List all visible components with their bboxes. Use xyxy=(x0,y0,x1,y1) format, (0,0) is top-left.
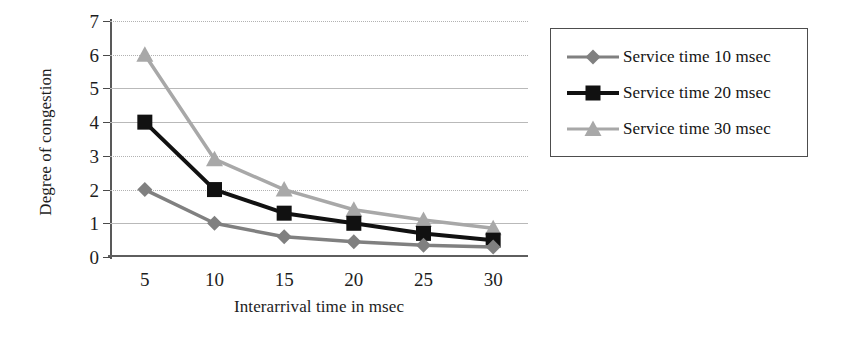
legend-item-label: Service time 10 msec xyxy=(623,47,771,67)
data-point-marker xyxy=(346,216,361,231)
y-axis-title: Degree of congestion xyxy=(36,32,56,252)
triangle-marker xyxy=(565,118,621,140)
y-tick-label-5: 5 xyxy=(90,79,100,98)
data-point-marker xyxy=(137,182,152,197)
series-2 xyxy=(137,115,500,248)
congestion-line-chart: Degree of congestion 01234567 5101520253… xyxy=(0,0,845,345)
x-tick-label-30: 30 xyxy=(484,270,503,289)
y-tick-mark-0 xyxy=(103,257,110,258)
data-point-marker xyxy=(346,234,361,249)
data-point-marker xyxy=(137,115,152,130)
y-tick-mark-2 xyxy=(103,190,110,191)
legend-item-label: Service time 30 msec xyxy=(623,119,771,139)
legend-box: Service time 10 msecService time 20 msec… xyxy=(550,28,808,157)
x-axis-title: Interarrival time in msec xyxy=(110,297,528,317)
y-tick-label-1: 1 xyxy=(90,214,100,233)
y-tick-label-7: 7 xyxy=(90,12,100,31)
legend-item-1[interactable]: Service time 10 msec xyxy=(551,39,807,75)
y-tick-mark-3 xyxy=(103,156,110,157)
y-tick-label-6: 6 xyxy=(90,45,100,64)
x-tick-label-15: 15 xyxy=(275,270,294,289)
data-point-marker xyxy=(277,229,292,244)
legend-item-3[interactable]: Service time 30 msec xyxy=(551,111,807,147)
x-tick-label-25: 25 xyxy=(414,270,433,289)
square-marker xyxy=(565,82,621,104)
data-point-marker xyxy=(207,182,222,197)
y-tick-label-2: 2 xyxy=(90,180,100,199)
y-tick-mark-4 xyxy=(103,122,110,123)
series-line-3 xyxy=(145,55,493,229)
x-tick-label-10: 10 xyxy=(205,270,224,289)
y-tick-mark-5 xyxy=(103,88,110,89)
plot-area: 01234567 51015202530 xyxy=(110,21,528,257)
y-tick-mark-6 xyxy=(103,55,110,56)
series-3 xyxy=(136,46,501,235)
y-tick-mark-7 xyxy=(103,21,110,22)
y-tick-label-4: 4 xyxy=(90,113,100,132)
y-tick-label-0: 0 xyxy=(90,248,100,267)
x-tick-label-20: 20 xyxy=(344,270,363,289)
x-tick-label-5: 5 xyxy=(140,270,150,289)
diamond-marker xyxy=(565,46,621,68)
legend-item-label: Service time 20 msec xyxy=(623,83,771,103)
y-tick-label-3: 3 xyxy=(90,146,100,165)
data-point-marker xyxy=(136,46,153,61)
series-layer xyxy=(110,21,528,257)
legend-item-2[interactable]: Service time 20 msec xyxy=(551,75,807,111)
data-point-marker xyxy=(207,216,222,231)
y-tick-mark-1 xyxy=(103,223,110,224)
data-point-marker xyxy=(277,206,292,221)
